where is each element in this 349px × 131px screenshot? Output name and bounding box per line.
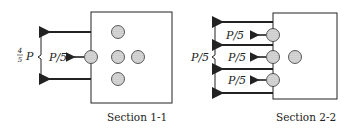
bolt-left	[85, 51, 98, 64]
bolt-center	[112, 51, 125, 64]
bracket-label-den: 5	[18, 56, 23, 64]
bolt-force-label-1: P/5	[225, 29, 244, 42]
bolt-force-label: P/5	[48, 51, 67, 64]
section-1-1: 4 5 P P/5 Section 1-1	[17, 12, 172, 123]
bolt-bottom	[112, 73, 125, 86]
brace-icon	[38, 31, 44, 80]
bracket-label-var: P	[25, 50, 34, 63]
bolt-top	[112, 26, 125, 39]
bolt-right	[132, 51, 145, 64]
bolt-force-label-2: P/5	[227, 51, 246, 64]
bracket-label: P/5	[190, 51, 209, 64]
plate-2	[273, 13, 337, 99]
caption-section-1: Section 1-1	[107, 111, 167, 123]
bracket-label-num: 4	[17, 47, 22, 55]
bolt-force-label-3: P/5	[227, 74, 246, 87]
bolt-2	[267, 51, 280, 64]
bolt-3	[289, 51, 302, 64]
diagram-canvas: 4 5 P P/5 Section 1-1 P/5 P/5 P/5 P/5 Se…	[0, 0, 349, 131]
bolt-1	[267, 29, 280, 42]
caption-section-2: Section 2-2	[276, 111, 336, 123]
brace-icon	[212, 21, 218, 94]
section-2-2: P/5 P/5 P/5 P/5 Section 2-2	[190, 13, 337, 123]
bolt-4	[267, 74, 280, 87]
